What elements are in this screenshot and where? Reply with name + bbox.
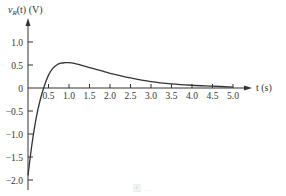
x-tick-label: 2.0: [104, 91, 116, 101]
x-tick-label: 4.0: [186, 91, 198, 101]
x-tick-label: 1.0: [63, 91, 75, 101]
x-tick-label: 0.5: [43, 91, 55, 101]
x-tick-label: 2.5: [125, 91, 137, 101]
axes: [26, 18, 253, 190]
y-tick-label: −0.5: [6, 107, 23, 117]
x-tick-label: 3.5: [166, 91, 178, 101]
x-tick-label: 1.5: [84, 91, 96, 101]
series-line: [28, 63, 233, 176]
x-tick-label: 4.5: [207, 91, 219, 101]
x-axis-arrow-icon: [244, 86, 252, 91]
x-axis-label: t (s): [256, 82, 272, 94]
y-axis-arrow-icon: [26, 18, 31, 26]
y-tick-label: −1.0: [6, 130, 23, 140]
chart: 0.51.01.52.02.53.03.54.04.55.0 1.00.50−0…: [0, 0, 286, 196]
figure-caption: 图 ...: [0, 182, 286, 193]
y-axis-label: vR(t) (V): [8, 4, 43, 17]
y-tick-label: 1.0: [11, 38, 23, 48]
y-tick-label: 0.5: [11, 61, 23, 71]
y-tick-label: −1.5: [6, 153, 23, 163]
x-tick-label: 3.0: [145, 91, 157, 101]
x-tick-label: 5.0: [227, 91, 239, 101]
y-tick-label: 0: [18, 84, 23, 94]
